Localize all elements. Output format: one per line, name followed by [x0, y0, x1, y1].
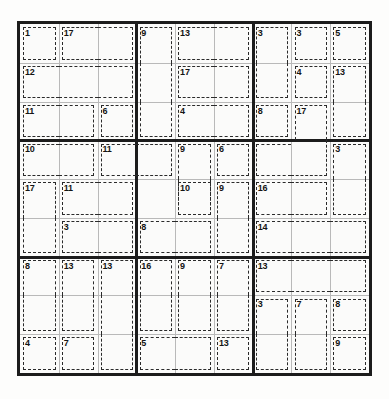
sudoku-cell-r1-c7[interactable] [253, 24, 292, 63]
sudoku-cell-r1-c3[interactable] [98, 24, 137, 63]
sudoku-cell-r4-c1[interactable] [20, 140, 59, 179]
sudoku-cell-r8-c1[interactable] [20, 295, 59, 334]
sudoku-cell-r2-c5[interactable] [175, 63, 214, 102]
sudoku-cell-r8-c2[interactable] [59, 295, 98, 334]
sudoku-cell-r3-c7[interactable] [253, 102, 292, 141]
sudoku-cell-r5-c6[interactable] [214, 179, 253, 218]
sudoku-cell-r6-c7[interactable] [253, 218, 292, 257]
sudoku-cell-r3-c2[interactable] [59, 102, 98, 141]
sudoku-cell-r5-c2[interactable] [59, 179, 98, 218]
sudoku-cell-r4-c4[interactable] [136, 140, 175, 179]
sudoku-cell-r5-c3[interactable] [98, 179, 137, 218]
sudoku-cell-r2-c1[interactable] [20, 63, 59, 102]
sudoku-grid-inner: 1179133351217413116481710119631711109163… [20, 24, 369, 373]
sudoku-cell-r3-c6[interactable] [214, 102, 253, 141]
sudoku-cell-r7-c7[interactable] [253, 257, 292, 296]
sudoku-cell-r9-c9[interactable] [330, 334, 369, 373]
sudoku-cell-r6-c2[interactable] [59, 218, 98, 257]
sudoku-cell-r6-c8[interactable] [291, 218, 330, 257]
sudoku-cell-r8-c8[interactable] [291, 295, 330, 334]
sudoku-cell-r6-c1[interactable] [20, 218, 59, 257]
sudoku-cell-r3-c5[interactable] [175, 102, 214, 141]
sudoku-cell-r1-c2[interactable] [59, 24, 98, 63]
sudoku-cell-r2-c2[interactable] [59, 63, 98, 102]
sudoku-cell-r8-c6[interactable] [214, 295, 253, 334]
sudoku-cell-r1-c1[interactable] [20, 24, 59, 63]
sudoku-cell-r1-c4[interactable] [136, 24, 175, 63]
sudoku-cell-r7-c4[interactable] [136, 257, 175, 296]
sudoku-cell-r8-c3[interactable] [98, 295, 137, 334]
sudoku-cell-r5-c1[interactable] [20, 179, 59, 218]
sudoku-cell-r9-c1[interactable] [20, 334, 59, 373]
sudoku-cell-r7-c9[interactable] [330, 257, 369, 296]
sudoku-cell-r6-c3[interactable] [98, 218, 137, 257]
killer-sudoku-puzzle: 1179133351217413116481710119631711109163… [0, 0, 389, 399]
sudoku-cell-r2-c7[interactable] [253, 63, 292, 102]
sudoku-cell-r2-c3[interactable] [98, 63, 137, 102]
sudoku-cell-r9-c5[interactable] [175, 334, 214, 373]
sudoku-cell-r3-c9[interactable] [330, 102, 369, 141]
sudoku-cell-r3-c4[interactable] [136, 102, 175, 141]
sudoku-cell-r6-c6[interactable] [214, 218, 253, 257]
sudoku-cell-r4-c6[interactable] [214, 140, 253, 179]
sudoku-cell-r9-c4[interactable] [136, 334, 175, 373]
sudoku-cell-r4-c7[interactable] [253, 140, 292, 179]
sudoku-cell-r2-c6[interactable] [214, 63, 253, 102]
sudoku-cell-r7-c2[interactable] [59, 257, 98, 296]
sudoku-cell-r1-c8[interactable] [291, 24, 330, 63]
sudoku-cell-r9-c3[interactable] [98, 334, 137, 373]
sudoku-cell-r4-c2[interactable] [59, 140, 98, 179]
sudoku-cell-r4-c9[interactable] [330, 140, 369, 179]
sudoku-cell-r4-c5[interactable] [175, 140, 214, 179]
sudoku-cell-r6-c9[interactable] [330, 218, 369, 257]
sudoku-cell-r2-c9[interactable] [330, 63, 369, 102]
sudoku-cell-r7-c3[interactable] [98, 257, 137, 296]
sudoku-cell-r1-c5[interactable] [175, 24, 214, 63]
sudoku-cell-r9-c6[interactable] [214, 334, 253, 373]
sudoku-cell-r3-c1[interactable] [20, 102, 59, 141]
sudoku-cell-r2-c4[interactable] [136, 63, 175, 102]
sudoku-cell-r5-c5[interactable] [175, 179, 214, 218]
sudoku-cell-r1-c6[interactable] [214, 24, 253, 63]
sudoku-cell-r7-c1[interactable] [20, 257, 59, 296]
sudoku-cell-r7-c6[interactable] [214, 257, 253, 296]
sudoku-cell-r5-c4[interactable] [136, 179, 175, 218]
sudoku-cell-r6-c4[interactable] [136, 218, 175, 257]
sudoku-cell-r9-c7[interactable] [253, 334, 292, 373]
sudoku-cell-r8-c7[interactable] [253, 295, 292, 334]
sudoku-cell-r3-c3[interactable] [98, 102, 137, 141]
sudoku-cell-r8-c4[interactable] [136, 295, 175, 334]
sudoku-cell-r5-c8[interactable] [291, 179, 330, 218]
sudoku-cell-r4-c3[interactable] [98, 140, 137, 179]
sudoku-cell-r7-c5[interactable] [175, 257, 214, 296]
sudoku-cell-r4-c8[interactable] [291, 140, 330, 179]
sudoku-cell-r3-c8[interactable] [291, 102, 330, 141]
sudoku-cell-r5-c9[interactable] [330, 179, 369, 218]
sudoku-cell-r8-c9[interactable] [330, 295, 369, 334]
sudoku-cell-r9-c8[interactable] [291, 334, 330, 373]
sudoku-cell-r8-c5[interactable] [175, 295, 214, 334]
sudoku-grid-frame: 1179133351217413116481710119631711109163… [17, 21, 372, 376]
sudoku-cell-r2-c8[interactable] [291, 63, 330, 102]
sudoku-cell-r5-c7[interactable] [253, 179, 292, 218]
sudoku-cell-r6-c5[interactable] [175, 218, 214, 257]
sudoku-cell-r7-c8[interactable] [291, 257, 330, 296]
sudoku-cell-r9-c2[interactable] [59, 334, 98, 373]
sudoku-cell-r1-c9[interactable] [330, 24, 369, 63]
